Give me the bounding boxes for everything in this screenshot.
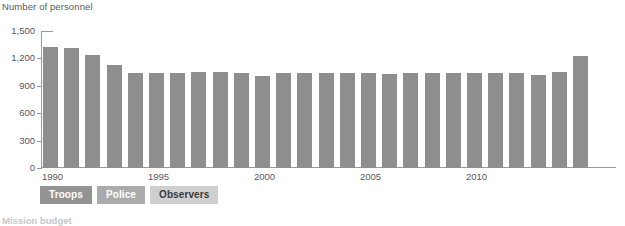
bar[interactable] bbox=[340, 73, 355, 168]
y-tick-label-text: 300 bbox=[1, 136, 35, 146]
plot-area bbox=[41, 31, 611, 168]
y-axis-title: Number of personnel bbox=[2, 1, 93, 12]
bar[interactable] bbox=[425, 73, 440, 168]
bar[interactable] bbox=[446, 73, 461, 168]
y-tick-label: 600 bbox=[0, 108, 35, 118]
bar-chart: Number of personnel 03006009001,2001,500… bbox=[0, 0, 625, 226]
bar[interactable] bbox=[128, 73, 143, 168]
bar[interactable] bbox=[552, 72, 567, 168]
y-tick-mark bbox=[37, 168, 42, 169]
bar[interactable] bbox=[234, 73, 249, 168]
bar[interactable] bbox=[382, 74, 397, 168]
y-tick-label-text: 1,500 bbox=[1, 26, 35, 36]
bar[interactable] bbox=[297, 73, 312, 168]
bar[interactable] bbox=[149, 73, 164, 168]
x-tick-label: 2005 bbox=[360, 171, 381, 182]
y-tick-label-text: 900 bbox=[1, 81, 35, 91]
x-tick-label: 2000 bbox=[254, 171, 275, 182]
y-tick-label-text: 0 bbox=[1, 163, 35, 173]
bar[interactable] bbox=[64, 48, 79, 168]
bar[interactable] bbox=[107, 65, 122, 168]
bar[interactable] bbox=[403, 73, 418, 168]
legend-tab-police[interactable]: Police bbox=[97, 186, 145, 204]
y-tick-label: 1,500 bbox=[0, 26, 35, 36]
bar[interactable] bbox=[170, 73, 185, 168]
y-tick-label: 1,200 bbox=[0, 53, 35, 63]
bar[interactable] bbox=[276, 73, 291, 168]
y-tick-label-text: 600 bbox=[1, 108, 35, 118]
bar[interactable] bbox=[467, 73, 482, 168]
bar[interactable] bbox=[509, 73, 524, 168]
y-tick-label: 0 bbox=[0, 163, 35, 173]
bar[interactable] bbox=[43, 47, 58, 168]
x-tick-label: 1995 bbox=[148, 171, 169, 182]
bar[interactable] bbox=[361, 73, 376, 168]
x-tick-label: 2010 bbox=[466, 171, 487, 182]
y-tick-label-text: 1,200 bbox=[1, 53, 35, 63]
bar[interactable] bbox=[319, 73, 334, 168]
legend-tab-troops[interactable]: Troops bbox=[40, 186, 92, 204]
bar[interactable] bbox=[531, 75, 546, 168]
bar[interactable] bbox=[255, 76, 270, 168]
legend: TroopsPoliceObservers bbox=[40, 186, 218, 204]
bar[interactable] bbox=[85, 55, 100, 168]
y-tick-label: 900 bbox=[0, 81, 35, 91]
bar[interactable] bbox=[488, 73, 503, 168]
bar[interactable] bbox=[213, 72, 228, 168]
bar[interactable] bbox=[573, 56, 588, 168]
footer-heading: Mission budget bbox=[2, 215, 72, 226]
bar[interactable] bbox=[191, 72, 206, 168]
x-tick-label: 1990 bbox=[42, 171, 63, 182]
legend-tab-observers[interactable]: Observers bbox=[150, 186, 218, 204]
y-tick-label: 300 bbox=[0, 136, 35, 146]
